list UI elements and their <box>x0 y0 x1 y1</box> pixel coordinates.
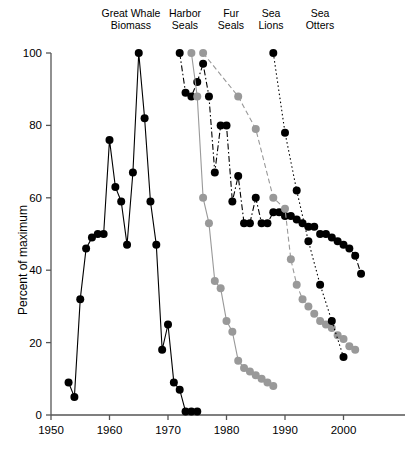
data-point <box>65 378 73 386</box>
data-point <box>170 378 178 386</box>
data-point <box>351 346 359 354</box>
data-point <box>193 92 201 100</box>
data-point <box>176 49 184 57</box>
y-tick-label: 100 <box>23 47 42 59</box>
data-point <box>176 386 184 394</box>
series-fur-seals <box>187 49 277 390</box>
data-point <box>263 219 271 227</box>
data-point <box>340 335 348 343</box>
x-tick-label: 1970 <box>155 424 181 436</box>
data-point <box>252 194 260 202</box>
data-point <box>304 237 312 245</box>
data-point <box>106 136 114 144</box>
data-point <box>111 183 119 191</box>
data-point <box>129 168 137 176</box>
data-point <box>117 197 125 205</box>
data-point <box>141 114 149 122</box>
data-point <box>293 187 301 195</box>
data-point <box>357 270 365 278</box>
series-harbor-seals <box>176 49 365 278</box>
chart-container: Great Whale Biomass Harbor Seals Fur Sea… <box>0 0 411 455</box>
x-tick-label: 1990 <box>272 424 298 436</box>
data-point <box>310 223 318 231</box>
plot-area: 020406080100195019601970198019902000 <box>0 0 411 455</box>
data-point <box>328 317 336 325</box>
data-point <box>205 219 213 227</box>
x-tick-label: 1960 <box>97 424 123 436</box>
x-tick-label: 1950 <box>38 424 64 436</box>
data-point <box>82 244 90 252</box>
data-point <box>351 252 359 260</box>
data-point <box>269 382 277 390</box>
data-point <box>269 49 277 57</box>
data-point <box>158 346 166 354</box>
y-tick-label: 80 <box>29 119 42 131</box>
series-line <box>203 53 355 350</box>
data-point <box>310 310 318 318</box>
x-tick-label: 1980 <box>214 424 240 436</box>
data-point <box>228 328 236 336</box>
data-point <box>281 129 289 137</box>
data-point <box>223 121 231 129</box>
data-point <box>100 230 108 238</box>
data-point <box>234 172 242 180</box>
y-tick-label: 60 <box>29 192 42 204</box>
data-point <box>293 281 301 289</box>
data-point <box>76 295 84 303</box>
data-point <box>234 357 242 365</box>
data-point <box>223 317 231 325</box>
data-point <box>193 407 201 415</box>
data-point <box>304 302 312 310</box>
series-line <box>69 53 198 411</box>
data-point <box>205 92 213 100</box>
series-great-whale-biomass <box>65 49 202 415</box>
data-point <box>328 324 336 332</box>
data-point <box>299 295 307 303</box>
data-point <box>211 168 219 176</box>
data-point <box>217 284 225 292</box>
data-point <box>269 194 277 202</box>
data-point <box>123 241 131 249</box>
data-point <box>281 205 289 213</box>
data-point <box>164 321 172 329</box>
data-point <box>199 194 207 202</box>
data-point <box>228 197 236 205</box>
data-point <box>70 393 78 401</box>
y-tick-label: 0 <box>36 409 42 421</box>
data-point <box>246 219 254 227</box>
data-point <box>199 60 207 68</box>
data-point <box>287 255 295 263</box>
data-point <box>340 353 348 361</box>
x-tick-label: 2000 <box>331 424 357 436</box>
y-tick-label: 40 <box>29 264 42 276</box>
data-point <box>135 49 143 57</box>
data-point <box>211 277 219 285</box>
data-point <box>152 241 160 249</box>
data-point <box>345 244 353 252</box>
data-point <box>234 92 242 100</box>
data-point <box>199 49 207 57</box>
data-point <box>316 281 324 289</box>
data-point <box>187 49 195 57</box>
data-point <box>252 125 260 133</box>
series-sea-otters <box>269 49 347 361</box>
y-tick-label: 20 <box>29 337 42 349</box>
data-point <box>146 197 154 205</box>
